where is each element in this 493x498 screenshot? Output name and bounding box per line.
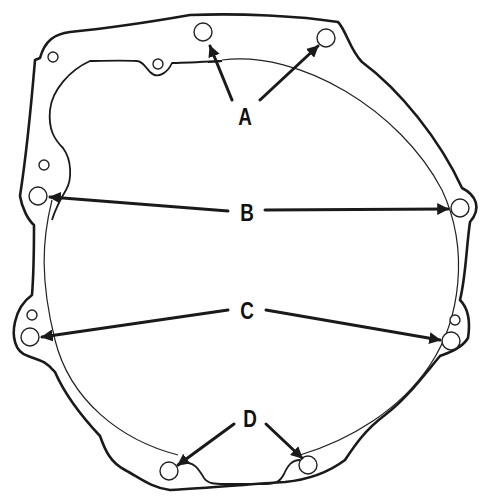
bolt-hole-a2 [317,29,335,47]
bolt-hole-b-left [29,187,47,205]
bolt-hole-c-right [442,332,460,350]
gasket-inner-outline [50,61,222,220]
callout-label-d: D [243,408,257,431]
arrow-b-right [265,209,448,210]
arrow-d-left [178,424,234,465]
bolt-hole-c-left [21,328,39,346]
bottom-notch [180,460,300,484]
bolt-hole-d-left [160,462,178,480]
callout-label-c: C [240,300,254,323]
arrow-c-right [266,310,440,340]
arrow-c-left [42,310,228,337]
bolt-hole-a1 [194,23,212,41]
callout-label-b: B [240,202,254,225]
arrow-a1 [210,46,232,100]
callout-label-a: A [238,106,252,129]
arrow-b-left [50,197,228,211]
arrow-d-right [266,424,302,458]
bolt-hole-b-right [451,199,469,217]
